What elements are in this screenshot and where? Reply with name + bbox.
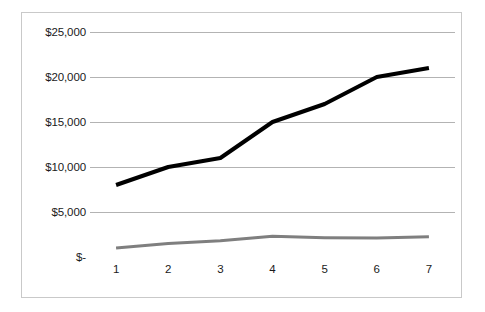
y-axis-tick-label: $10,000 xyxy=(45,161,86,173)
x-axis-tick-label: 6 xyxy=(362,262,392,276)
y-axis-tick-label: $25,000 xyxy=(45,26,86,38)
series-line-2 xyxy=(116,236,429,248)
y-axis-tick-label: $15,000 xyxy=(45,116,86,128)
x-axis-tick-labels: 1234567 xyxy=(90,262,455,282)
y-axis-tick-labels: $25,000$20,000$15,000$10,000$5,000$- xyxy=(24,0,86,312)
x-axis-tick-label: 5 xyxy=(310,262,340,276)
x-axis-tick-label: 4 xyxy=(258,262,288,276)
gridlines xyxy=(90,32,455,257)
x-axis-tick-label: 1 xyxy=(101,262,131,276)
x-axis-tick-label: 3 xyxy=(205,262,235,276)
plot-svg xyxy=(90,32,455,257)
chart-container: $25,000$20,000$15,000$10,000$5,000$- 123… xyxy=(0,0,485,312)
y-axis-tick-label: $5,000 xyxy=(51,206,86,218)
plot-area xyxy=(90,32,455,257)
y-axis-tick-label: $- xyxy=(76,251,86,263)
y-axis-tick-label: $20,000 xyxy=(45,71,86,83)
x-axis-tick-label: 7 xyxy=(414,262,444,276)
x-axis-tick-label: 2 xyxy=(153,262,183,276)
